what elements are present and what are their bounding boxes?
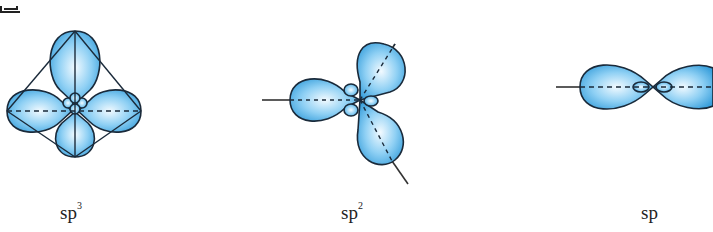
- sp-label: sp: [641, 202, 658, 224]
- hybrid-orbitals-diagram: [0, 0, 713, 232]
- sp3-label: sp3: [60, 202, 82, 224]
- sp2-label: sp2: [341, 202, 363, 224]
- sp-orbital-diagram: [556, 65, 713, 109]
- sp3-orbital-diagram: [7, 31, 141, 157]
- sp2-orbital-diagram: [262, 43, 408, 184]
